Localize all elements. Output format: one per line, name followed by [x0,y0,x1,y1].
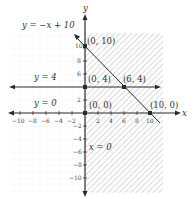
y-tick-label: −10 [69,174,82,181]
label-point-6-4: (6, 4) [123,74,146,84]
graph: x y −10 [0,0,195,199]
label-line-y-4: y = 4 [33,72,57,82]
label-point-10-0: (10, 0) [150,100,178,110]
y-tick-label: −6 [73,148,82,155]
point-10-0 [148,111,152,115]
y-tick-label: 6 [77,70,81,77]
x-tick-label: 10 [146,117,154,124]
point-0-4 [83,85,87,89]
label-point-0-10: (0, 10) [87,36,115,46]
x-tick-label: −8 [28,117,37,124]
y-tick-label: −2 [73,122,82,129]
y-tick-label: −4 [73,135,82,142]
x-tick-label: −10 [12,117,25,124]
y-axis-label: y [82,3,88,13]
x-tick-label: 2 [96,117,100,124]
y-tick-label: 2 [77,96,81,103]
x-tick-label: 6 [122,117,126,124]
y-tick-label: −8 [73,161,82,168]
x-axis-label: x [182,108,187,118]
label-point-0-4: (0, 4) [88,74,111,84]
label-line-x-0: x = 0 [89,142,112,152]
x-tick-label: 8 [135,117,139,124]
x-tick-label: 4 [109,117,113,124]
point-0-0 [83,111,87,115]
x-tick-label: −6 [41,117,50,124]
y-tick-label: 8 [77,57,81,64]
label-line-neg-x-plus-10: y = −x + 10 [21,20,75,30]
y-tick-label: 10 [75,42,83,49]
point-6-4 [122,85,126,89]
label-line-y-0: y = 0 [33,98,57,108]
label-point-0-0: (0, 0) [89,100,112,110]
x-tick-label: −4 [54,117,63,124]
